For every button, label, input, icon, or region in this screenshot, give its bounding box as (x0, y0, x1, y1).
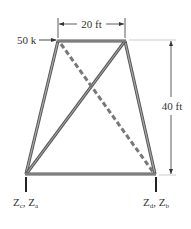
dimension-label-40ft: 40 ft (162, 100, 182, 112)
dimension-height: 40 ft (129, 40, 182, 175)
supports (26, 177, 156, 192)
truss-diagram: 20 ft 40 ft 50 k Zc, Za Zd, Zb (0, 0, 191, 229)
truss-members (25, 41, 156, 174)
left-support-label: Zc, Za (13, 196, 39, 210)
member-right-leg (125, 41, 155, 174)
load-50k: 50 k (17, 34, 57, 46)
load-arrow-icon (51, 38, 57, 42)
dimension-top-width: 20 ft (58, 18, 125, 38)
right-support-label: Zd, Zb (143, 196, 169, 210)
load-label: 50 k (17, 34, 37, 46)
dimension-label-20ft: 20 ft (81, 18, 101, 30)
